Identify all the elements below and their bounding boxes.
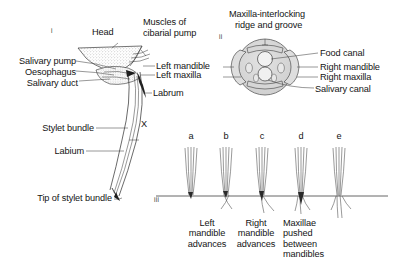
proboscis xyxy=(110,72,142,201)
caption-right-mandible-advances: Right mandible advances xyxy=(233,218,279,249)
food-canal xyxy=(258,52,273,67)
panel-marker-ii: ii xyxy=(219,33,223,40)
label-oesophagus: Oesophagus xyxy=(0,67,76,77)
label-tip-of-stylet-bundle: Tip of stylet bundle xyxy=(8,193,112,203)
pharyngeal-organs xyxy=(96,66,140,84)
panel-marker-i: i xyxy=(51,27,53,34)
label-right-maxilla: Right maxilla xyxy=(320,72,371,82)
label-muscles-line2: cibarial pump xyxy=(143,28,196,38)
label-food-canal: Food canal xyxy=(320,48,364,58)
label-labium: Labium xyxy=(28,146,84,156)
caption-d-line3: between xyxy=(283,239,335,249)
label-muscles-line1: Muscles of xyxy=(143,17,186,27)
caption-c-line2: mandible xyxy=(233,228,279,238)
stylet-group-c xyxy=(256,147,274,213)
label-stylet-bundle: Stylet bundle xyxy=(14,123,94,133)
caption-d-line4: mandibles xyxy=(283,249,335,259)
caption-c-line3: advances xyxy=(233,239,279,249)
caption-b-line3: advances xyxy=(184,239,230,249)
panel-marker-iii: iii xyxy=(154,196,159,203)
stylet-group-b xyxy=(220,147,232,209)
stylet-group-e xyxy=(331,147,351,218)
stylet-group-d xyxy=(295,147,310,214)
caption-maxillae-pushed-between-mandibles: Maxillae pushed between mandibles xyxy=(283,218,335,260)
stage-letter-d: d xyxy=(290,131,312,141)
label-salivary-pump: Salivary pump xyxy=(0,56,76,66)
panel-ii-artwork xyxy=(223,39,318,95)
label-right-mandible: Right mandible xyxy=(320,62,380,72)
panel-iii-artwork xyxy=(156,147,388,218)
caption-b-line2: mandible xyxy=(184,228,230,238)
caption-b-line1: Left xyxy=(184,218,230,228)
stage-letter-a: a xyxy=(180,131,202,141)
insect-mouthparts-diagram: i ii iii Head Muscles of cibarial pump S… xyxy=(0,0,393,272)
label-maxilla-interlocking-line2: ridge and groove xyxy=(235,20,302,30)
stage-letter-e: e xyxy=(328,131,350,141)
label-salivary-canal: Salivary canal xyxy=(315,84,371,94)
label-marker-x: X xyxy=(141,119,147,129)
label-left-maxilla: Left maxilla xyxy=(156,70,201,80)
caption-d-line1: Maxillae xyxy=(283,218,335,228)
caption-d-line2: pushed xyxy=(283,228,335,238)
stage-letter-c: c xyxy=(251,131,273,141)
stylet-group-a xyxy=(185,147,197,199)
salivary-canal xyxy=(258,67,272,81)
caption-c-line1: Right xyxy=(233,218,279,228)
label-labrum: Labrum xyxy=(153,88,184,98)
stage-letter-b: b xyxy=(215,131,237,141)
label-maxilla-interlocking-line1: Maxilla-interlocking xyxy=(229,9,305,19)
label-salivary-duct: Salivary duct xyxy=(0,78,78,88)
caption-left-mandible-advances: Left mandible advances xyxy=(184,218,230,249)
label-head: Head xyxy=(92,27,114,37)
